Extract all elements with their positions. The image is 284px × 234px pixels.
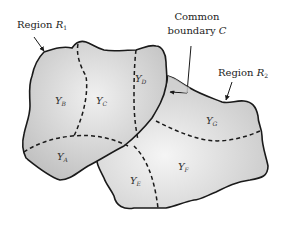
- common-boundary-line2: boundary C: [168, 25, 227, 36]
- region-r2-callout: Region R2: [218, 67, 268, 100]
- region-r1-label: Region R1: [17, 19, 67, 31]
- common-boundary-line1: Common: [174, 11, 220, 22]
- region-r1-callout: Region R1: [17, 19, 67, 51]
- region-r2-label: Region R2: [218, 67, 268, 79]
- common-boundary-callout: Common boundary C: [168, 11, 227, 93]
- common-boundary-patch: [168, 76, 190, 93]
- region-r2-arrow-icon: [226, 82, 232, 100]
- region-r1-arrow-icon: [34, 37, 44, 51]
- diagram-canvas: YB YC YD YA YE YF YG Region R1 Common bo…: [0, 0, 284, 234]
- region-diagram: YB YC YD YA YE YF YG Region R1 Common bo…: [0, 0, 284, 234]
